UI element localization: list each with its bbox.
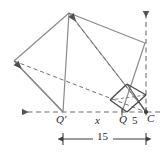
label-q: Q (119, 114, 127, 125)
figure-canvas (0, 0, 166, 153)
large-square (14, 13, 145, 112)
small-square-side-1 (110, 84, 127, 100)
ray-to-left-vertex (16, 63, 63, 112)
label-q-prime: Q′ (56, 114, 66, 125)
label-fifteen: 15 (97, 131, 108, 142)
geometry-figure: Q′ x Q 5 C 15 (0, 0, 166, 153)
large-square-side-upper-left (14, 13, 69, 61)
label-c: C (147, 113, 154, 124)
construction-lines (14, 13, 146, 112)
large-square-side-left-upper (63, 13, 69, 112)
label-five: 5 (132, 115, 138, 126)
large-square-side-right-lower (122, 43, 145, 112)
label-x: x (95, 115, 100, 126)
